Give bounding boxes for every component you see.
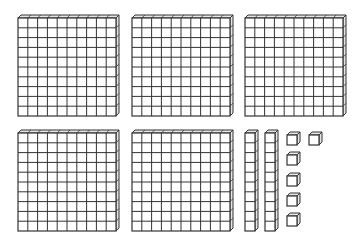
base-ten-blocks-diagram <box>0 0 363 238</box>
hundred-flat <box>18 130 119 231</box>
hundred-flat <box>132 15 233 116</box>
one-unit-cube <box>287 132 300 145</box>
ten-rod <box>265 130 278 231</box>
hundred-flat <box>245 15 346 116</box>
one-unit-cube <box>287 152 300 165</box>
ten-rod <box>245 130 258 231</box>
tens-rods <box>245 130 278 231</box>
one-unit-cube <box>287 193 300 206</box>
one-unit-cube <box>287 173 300 186</box>
one-unit-cube <box>309 132 322 145</box>
ones-units <box>287 132 322 226</box>
hundred-flat <box>18 15 119 116</box>
hundred-flat <box>132 130 233 231</box>
one-unit-cube <box>287 213 300 226</box>
